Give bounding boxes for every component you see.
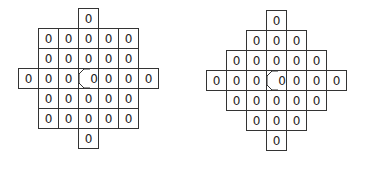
grid-cell: 0: [266, 130, 287, 151]
octagon-marker-icon: [79, 69, 90, 88]
cell-value: 0: [233, 94, 241, 108]
cell-value: 0: [253, 114, 261, 128]
grid-cell: 0: [118, 68, 139, 89]
cell-value: 0: [233, 54, 241, 68]
grid-cell: 0: [138, 68, 159, 89]
cell-value: 0: [253, 94, 261, 108]
cell-value: 0: [65, 52, 73, 66]
grid-cell: 0: [246, 90, 267, 111]
cell-value: 0: [85, 112, 93, 126]
grid-cell: 0: [118, 88, 139, 109]
grid-cell: 0: [306, 50, 327, 71]
cell-value: 0: [45, 32, 53, 46]
cell-value: 0: [85, 12, 93, 26]
grid-cell: 0: [286, 30, 307, 51]
grid-cell: 0: [118, 108, 139, 129]
grid-cell: 0: [58, 88, 79, 109]
grid-cell: 0: [246, 30, 267, 51]
cell-value: 0: [125, 52, 133, 66]
cell-value: 0: [278, 74, 286, 88]
cell-value: 0: [105, 52, 113, 66]
cell-value: 0: [293, 74, 301, 88]
cell-value: 0: [293, 114, 301, 128]
grid-cell: 0: [78, 88, 99, 109]
cell-value: 0: [253, 74, 261, 88]
cell-value: 0: [253, 54, 261, 68]
cell-value: 0: [125, 72, 133, 86]
grid-cell: 0: [266, 10, 287, 31]
grid-cell: 0: [78, 128, 99, 149]
grid-cell: 0: [18, 68, 39, 89]
grid-cell: 0: [286, 110, 307, 131]
cell-value: 0: [145, 72, 153, 86]
grid-cell: 0: [58, 68, 79, 89]
cell-value: 0: [105, 72, 113, 86]
cell-value: 0: [65, 112, 73, 126]
cell-value: 0: [253, 34, 261, 48]
grid-cell: 0: [98, 48, 119, 69]
grid-cell: 0: [246, 50, 267, 71]
grid-cell: 0: [118, 48, 139, 69]
center-cell: 0: [78, 68, 99, 89]
cell-value: 0: [313, 54, 321, 68]
grid-cell: 0: [58, 48, 79, 69]
cell-value: 0: [45, 72, 53, 86]
grid-cell: 0: [326, 70, 347, 91]
cell-value: 0: [45, 52, 53, 66]
cell-value: 0: [273, 14, 281, 28]
cell-value: 0: [85, 32, 93, 46]
center-cell: 0: [266, 70, 287, 91]
cell-value: 0: [273, 54, 281, 68]
grid-cell: 0: [226, 70, 247, 91]
grid-cell: 0: [78, 28, 99, 49]
grid-cell: 0: [38, 48, 59, 69]
cell-value: 0: [313, 74, 321, 88]
cell-value: 0: [65, 72, 73, 86]
cell-value: 0: [85, 92, 93, 106]
cell-value: 0: [65, 32, 73, 46]
cell-value: 0: [213, 74, 221, 88]
cell-value: 0: [25, 72, 33, 86]
grid-cell: 0: [306, 70, 327, 91]
grid-cell: 0: [286, 50, 307, 71]
grid-cell: 0: [266, 30, 287, 51]
grid-cell: 0: [38, 28, 59, 49]
grid-cell: 0: [266, 90, 287, 111]
cell-value: 0: [65, 92, 73, 106]
cell-value: 0: [105, 112, 113, 126]
grid-cell: 0: [226, 50, 247, 71]
grid-cell: 0: [38, 68, 59, 89]
grid-cell: 0: [246, 110, 267, 131]
grid-cell: 0: [58, 108, 79, 129]
grid-cell: 0: [98, 68, 119, 89]
grid-cell: 0: [78, 108, 99, 129]
grid-cell: 0: [78, 48, 99, 69]
grid-cell: 0: [206, 70, 227, 91]
cell-value: 0: [273, 94, 281, 108]
octagon-marker-icon: [267, 71, 278, 90]
grid-cell: 0: [58, 28, 79, 49]
cell-value: 0: [105, 32, 113, 46]
cell-value: 0: [273, 134, 281, 148]
cell-value: 0: [125, 92, 133, 106]
cell-value: 0: [45, 92, 53, 106]
grid-cell: 0: [286, 70, 307, 91]
cell-value: 0: [125, 112, 133, 126]
cell-value: 0: [90, 72, 98, 86]
grid-cell: 0: [266, 50, 287, 71]
cell-value: 0: [233, 74, 241, 88]
cell-value: 0: [85, 132, 93, 146]
grid-cell: 0: [98, 28, 119, 49]
cell-value: 0: [293, 34, 301, 48]
cell-value: 0: [45, 112, 53, 126]
cell-value: 0: [293, 94, 301, 108]
cell-value: 0: [273, 114, 281, 128]
grid-cell: 0: [246, 70, 267, 91]
grid-cell: 0: [118, 28, 139, 49]
grid-cell: 0: [38, 108, 59, 129]
grid-cell: 0: [78, 8, 99, 29]
cell-value: 0: [333, 74, 341, 88]
cell-value: 0: [293, 54, 301, 68]
cell-value: 0: [125, 32, 133, 46]
cell-value: 0: [273, 34, 281, 48]
